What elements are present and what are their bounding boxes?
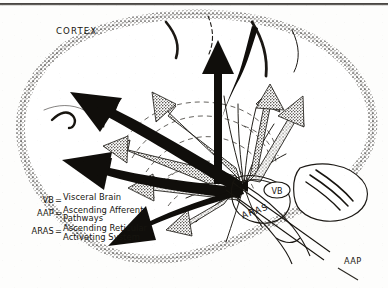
legend-row-aras: ARAS = Ascending Reticular Activating Sy… [16,224,166,241]
legend-abbr-aras: ARAS [16,224,54,235]
legend-row-vb: VB = Visceral Brain [16,193,166,204]
cortex-label: CORTEX [56,26,97,36]
legend-definition-aap: Ascending Afferent Pathways [63,206,166,223]
legend-equals-aras: = [54,224,63,235]
vb-label: VB [272,187,283,196]
legend-row-aap: AAP = Ascending Afferent Pathways [16,206,166,223]
aap-label: AAP [344,256,362,266]
legend-vb-line1: Visceral Brain [63,193,166,202]
figure-canvas: VB ARAS CORTEX AAP VB = Visceral Brain A… [0,0,388,288]
legend-definition-vb: Visceral Brain [63,193,166,202]
legend-equals-aap: = [54,206,63,217]
brain-diagram-svg: VB ARAS [0,0,388,288]
brain-outline [0,0,388,288]
legend-abbr-aap: AAP [16,206,54,217]
legend: VB = Visceral Brain AAP = Ascending Affe… [16,193,166,243]
legend-abbr-vb: VB [16,193,54,204]
legend-definition-aras: Ascending Reticular Activating System [63,224,166,241]
legend-equals-vb: = [54,193,63,204]
legend-aap-line2: Pathways [63,214,166,223]
legend-aras-line2: Activating System [63,233,166,242]
aras-arrow-vertical [214,62,222,184]
